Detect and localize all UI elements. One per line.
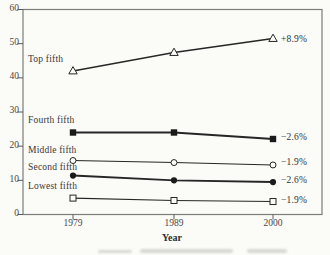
series-label-second-fifth: Second fifth — [28, 163, 77, 173]
y-tick-label: 60 — [0, 4, 19, 14]
series-label-lowest-fifth: Lowest fifth — [28, 182, 77, 192]
change-label-second-fifth: −2.6% — [281, 176, 307, 186]
data-point-marker-fourth-fifth — [70, 129, 76, 135]
scan-caption-smudge — [140, 249, 233, 253]
data-point-marker-top-fifth — [269, 34, 277, 41]
income-quintile-share-figure: 60 50 40 30 20 10 0 1979 1989 2000 Top f… — [0, 0, 330, 255]
y-tick-label: 30 — [0, 106, 19, 116]
x-tick-label-2000: 2000 — [253, 219, 293, 229]
y-tick-label: 50 — [0, 38, 19, 48]
scan-caption-smudge — [98, 250, 132, 253]
data-point-marker-middle-fifth — [171, 160, 177, 166]
data-point-marker-middle-fifth — [270, 162, 276, 168]
data-point-marker-lowest-fifth — [270, 199, 276, 205]
scan-caption-smudge — [247, 249, 287, 253]
data-point-marker-second-fifth — [70, 172, 76, 178]
y-tick-label: 10 — [0, 175, 19, 185]
change-label-middle-fifth: −1.9% — [281, 158, 307, 168]
x-tick-label-1989: 1989 — [154, 219, 194, 229]
data-point-marker-second-fifth — [171, 177, 177, 183]
series-label-fourth-fifth: Fourth fifth — [28, 116, 74, 126]
y-tick-label: 40 — [0, 72, 19, 82]
y-tick-label: 20 — [0, 141, 19, 151]
series-label-top-fifth: Top fifth — [28, 55, 63, 65]
change-label-fourth-fifth: −2.6% — [281, 133, 307, 143]
data-point-marker-lowest-fifth — [70, 195, 76, 201]
x-axis-title: Year — [122, 233, 222, 243]
data-point-marker-fourth-fifth — [171, 129, 177, 135]
x-tick-label-1979: 1979 — [53, 219, 93, 229]
data-point-marker-fourth-fifth — [270, 136, 276, 142]
y-tick-label: 0 — [0, 209, 19, 219]
change-label-top-fifth: +8.9% — [281, 35, 307, 45]
change-label-lowest-fifth: −1.9% — [281, 196, 307, 206]
series-label-middle-fifth: Middle fifth — [28, 146, 77, 156]
data-point-marker-second-fifth — [270, 179, 276, 185]
data-point-marker-lowest-fifth — [171, 197, 177, 203]
